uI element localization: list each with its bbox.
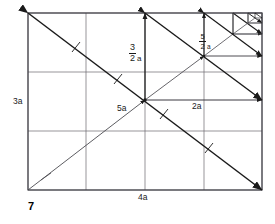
label-second-width: 2a [192,102,201,111]
level5-figure [255,13,262,18]
fraction-numerator: 5 [200,33,204,41]
level3-figure [233,13,262,34]
label-three-halves-a: 3 2 a [129,43,141,63]
label-bottom-side: 4a [138,193,147,202]
geometry-diagram [0,0,275,224]
fraction-three-halves: 3 2 [129,43,136,63]
fraction-denominator: 2 [200,43,204,51]
fraction-five-halves: 5 2 [199,33,206,50]
label-left-side: 3a [13,97,22,106]
fraction-denominator: 2 [130,54,135,63]
label-hypotenuse: 5a [117,104,126,113]
fraction-unit: a [136,54,141,64]
figure-container: 3a 4a 5a 2a 3 2 a 5 2 a 7 [0,0,275,224]
label-five-halves-a: 5 2 a [199,33,211,50]
level0-ascending-diagonal [28,100,145,190]
fraction-numerator: 3 [130,43,135,52]
figure-number: 7 [28,200,34,212]
fraction-unit: a [206,43,211,51]
